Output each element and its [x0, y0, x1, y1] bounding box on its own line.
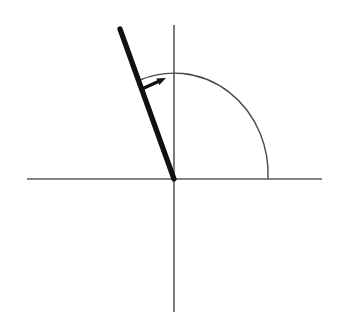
figure-background: [0, 0, 342, 322]
angle-diagram-figure: Standard position angle with terminal ra…: [0, 0, 342, 322]
angle-diagram-canvas: Standard position angle with terminal ra…: [0, 0, 342, 322]
